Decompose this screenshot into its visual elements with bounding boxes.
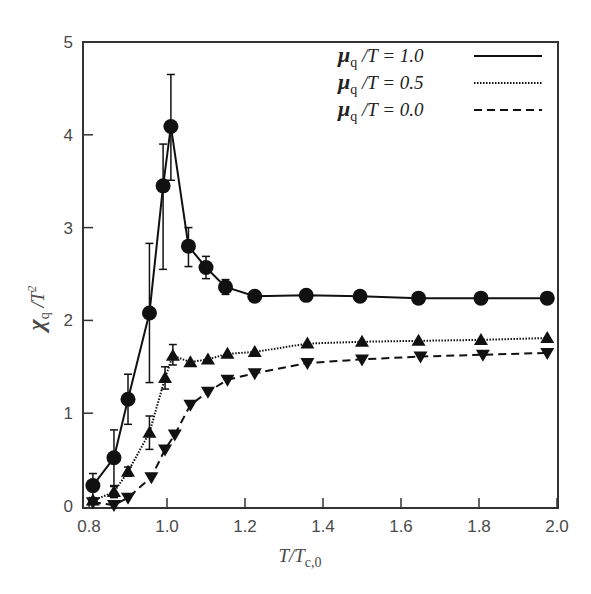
y-axis-ticks: 012345 <box>64 33 93 516</box>
triangle-down-marker <box>121 493 135 505</box>
circle-marker <box>199 260 214 275</box>
circle-marker <box>142 305 157 320</box>
y-tick-label: 4 <box>64 126 73 145</box>
x-axis-title: T/Tc,0 <box>278 545 321 570</box>
circle-marker <box>121 392 136 407</box>
triangle-up-marker <box>158 371 172 383</box>
y-tick-label: 0 <box>64 497 73 516</box>
y-tick-label: 3 <box>64 219 73 238</box>
y-tick-label: 1 <box>64 404 73 423</box>
x-tick-label: 0.8 <box>77 517 101 536</box>
triangle-down-marker <box>300 358 314 370</box>
circle-marker <box>218 279 233 294</box>
x-tick-label: 1.6 <box>389 517 413 536</box>
triangle-up-marker <box>142 426 156 438</box>
series-dashed <box>86 348 554 512</box>
series-solid <box>85 74 554 497</box>
y-tick-label: 5 <box>64 33 73 52</box>
circle-marker <box>106 450 121 465</box>
legend-item-1: μq /T = 1.0 <box>337 42 542 70</box>
svg-text:μq /T = 1.0: μq /T = 1.0 <box>337 42 424 70</box>
triangle-up-marker <box>540 331 554 343</box>
triangle-up-marker <box>107 485 121 497</box>
triangle-down-marker <box>144 472 158 484</box>
circle-marker <box>411 291 426 306</box>
circle-marker <box>540 291 555 306</box>
circle-marker <box>353 289 368 304</box>
circle-marker <box>163 119 178 134</box>
triangle-down-marker <box>201 387 215 399</box>
legend-item-3: μq /T = 0.0 <box>337 96 542 124</box>
triangle-down-marker <box>158 444 172 456</box>
circle-marker <box>247 289 262 304</box>
y-axis-title: χq /T2 <box>23 286 52 334</box>
y-tick-label: 2 <box>64 311 73 330</box>
circle-marker <box>473 291 488 306</box>
triangle-down-marker <box>107 500 121 512</box>
circle-marker <box>299 288 314 303</box>
svg-text:μq /T = 0.0: μq /T = 0.0 <box>337 96 424 124</box>
x-axis-ticks: 0.81.01.21.41.61.82.0 <box>77 498 569 536</box>
triangle-up-marker <box>121 465 135 477</box>
x-tick-label: 1.2 <box>233 517 257 536</box>
circle-marker <box>85 478 100 493</box>
triangle-down-marker <box>414 352 428 364</box>
triangle-down-marker <box>220 375 234 387</box>
triangle-up-marker <box>166 349 180 361</box>
x-tick-label: 1.0 <box>155 517 179 536</box>
circle-marker <box>181 239 196 254</box>
triangle-up-marker <box>412 334 426 346</box>
triangle-up-marker <box>474 333 488 345</box>
triangle-up-marker <box>300 337 314 349</box>
x-tick-label: 2.0 <box>545 517 569 536</box>
circle-marker <box>156 178 171 193</box>
triangle-down-marker <box>183 400 197 412</box>
triangle-down-marker <box>248 368 262 380</box>
x-tick-label: 1.4 <box>311 517 335 536</box>
svg-text:μq /T = 0.5: μq /T = 0.5 <box>337 69 424 97</box>
series-line <box>93 353 547 505</box>
legend-item-2: μq /T = 0.5 <box>337 69 542 97</box>
chart: 0.81.01.21.41.61.82.0 012345 μq /T = 1.0… <box>0 0 591 594</box>
x-tick-label: 1.8 <box>467 517 491 536</box>
data-series <box>85 74 554 512</box>
triangle-down-marker <box>168 430 182 442</box>
legend: μq /T = 1.0 μq /T = 0.5 μq /T = 0.0 <box>337 42 542 124</box>
